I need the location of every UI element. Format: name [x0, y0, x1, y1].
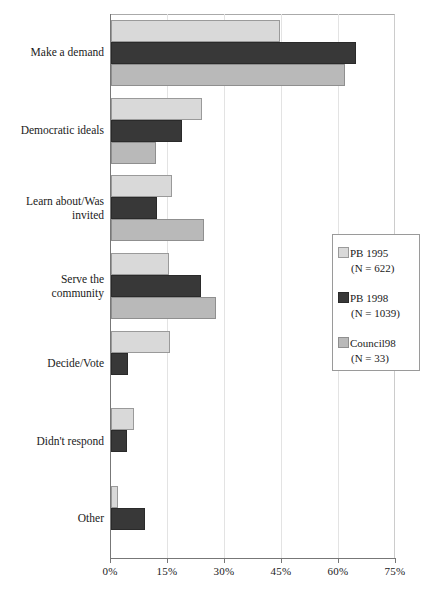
bar-chart: Make a demandDemocratic idealsLearn abou…: [0, 0, 436, 601]
x-axis-tickmark: [338, 559, 339, 563]
category-label-line: Decide/Vote: [6, 357, 104, 371]
legend-label-council98: Council98: [350, 337, 396, 349]
bar: [111, 120, 182, 142]
x-axis-tick-label: 30%: [202, 565, 246, 577]
x-axis-tick-label: 60%: [316, 565, 360, 577]
chart-legend: PB 1995 (N = 622) PB 1998 (N = 1039) Cou…: [332, 234, 420, 371]
category-label-line: invited: [6, 209, 104, 223]
category-label-line: Make a demand: [6, 46, 104, 60]
bar: [111, 64, 345, 86]
bar: [111, 353, 128, 375]
category-label-line: Didn't respond: [6, 435, 104, 449]
gridline: [224, 14, 225, 559]
bar: [111, 430, 127, 452]
bar: [111, 297, 216, 319]
x-axis-tickmark: [281, 559, 282, 563]
legend-n-pb-1995: (N = 622): [338, 261, 418, 275]
category-label: Learn about/Wasinvited: [6, 195, 110, 222]
category-label: Serve thecommunity: [6, 273, 110, 300]
legend-swatch-icon-pb-1995: [338, 247, 349, 258]
x-axis-tickmark: [167, 559, 168, 563]
bar: [111, 20, 280, 42]
category-label-line: Other: [6, 512, 104, 526]
category-label-line: Learn about/Was: [6, 195, 104, 209]
x-axis-tickmark: [395, 559, 396, 563]
bar: [111, 486, 118, 508]
legend-swatch-icon-pb-1998: [338, 292, 349, 303]
bar: [111, 408, 134, 430]
legend-label-pb-1995: PB 1995: [350, 247, 388, 259]
category-label-line: Democratic ideals: [6, 124, 104, 138]
bar: [111, 508, 145, 530]
bar: [111, 98, 202, 120]
legend-label-pb-1998: PB 1998: [350, 292, 388, 304]
x-axis-tick-label: 0%: [88, 565, 132, 577]
x-axis-line: [110, 558, 396, 559]
legend-n-council98: (N = 33): [338, 351, 418, 365]
legend-swatch-icon-council98: [338, 337, 349, 348]
gridline: [281, 14, 282, 559]
bar: [111, 219, 204, 241]
x-axis-tickmark: [224, 559, 225, 563]
bar: [111, 197, 157, 219]
legend-entry-pb-1998: PB 1998 (N = 1039): [338, 288, 418, 320]
x-axis-tick-label: 15%: [145, 565, 189, 577]
legend-n-pb-1998: (N = 1039): [338, 306, 418, 320]
category-label: Make a demand: [6, 46, 110, 60]
bar: [111, 142, 156, 164]
category-label: Democratic ideals: [6, 124, 110, 138]
bar: [111, 331, 170, 353]
bar: [111, 175, 172, 197]
category-label: Decide/Vote: [6, 357, 110, 371]
legend-entry-pb-1995: PB 1995 (N = 622): [338, 243, 418, 275]
legend-entry-council98: Council98 (N = 33): [338, 333, 418, 365]
category-label-line: Serve the: [6, 273, 104, 287]
bar: [111, 275, 201, 297]
x-axis-tick-label: 75%: [373, 565, 417, 577]
bar: [111, 42, 356, 64]
category-label: Didn't respond: [6, 435, 110, 449]
category-label-line: community: [6, 287, 104, 301]
category-label: Other: [6, 512, 110, 526]
x-axis-tickmark: [110, 559, 111, 563]
category-labels: Make a demandDemocratic idealsLearn abou…: [0, 0, 110, 601]
bar: [111, 253, 169, 275]
x-axis-tick-label: 45%: [259, 565, 303, 577]
